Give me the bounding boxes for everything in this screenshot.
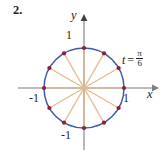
parameter-annotation: t = π 6 <box>122 50 143 70</box>
fraction-numerator: π <box>136 49 143 58</box>
annotation-fraction: π 6 <box>136 49 143 69</box>
point-7pi-6 <box>47 106 51 110</box>
point-pi <box>42 86 46 90</box>
point-5pi-3 <box>102 121 106 125</box>
tick-label-x-negative: -1 <box>29 92 39 104</box>
point-5pi-6 <box>47 66 51 70</box>
tick-label-y-positive: 1 <box>66 29 72 41</box>
annotation-equals: = <box>127 54 134 66</box>
point-pi-2 <box>82 46 86 50</box>
x-axis-arrowhead <box>152 85 159 92</box>
tick-label-y-negative: -1 <box>61 129 71 141</box>
point-4pi-3 <box>62 121 66 125</box>
y-axis-arrowhead <box>81 14 88 21</box>
point-2pi-3 <box>62 51 66 55</box>
point-0 <box>122 86 126 90</box>
fraction-denominator: 6 <box>136 59 143 68</box>
point-pi-6 <box>117 66 121 70</box>
x-axis-label: x <box>147 88 153 101</box>
tick-label-x-positive: 1 <box>123 92 129 104</box>
annotation-variable: t <box>122 54 125 66</box>
problem-number: 2. <box>13 4 22 17</box>
point-3pi-2 <box>82 126 86 130</box>
unit-circle-plot <box>0 0 164 156</box>
point-pi-3 <box>102 51 106 55</box>
y-axis-label: y <box>71 9 77 22</box>
point-11pi-6 <box>117 106 121 110</box>
axes-group <box>18 14 159 150</box>
unit-circle-figure: 2. y x 1 -1 -1 1 t = π 6 <box>0 0 164 156</box>
